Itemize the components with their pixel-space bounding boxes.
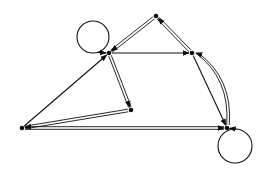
edge-A-to-D [109,55,131,107]
directed-graph-diagram [0,0,265,172]
edge-B-to-A [111,17,155,52]
self-loop-A [77,21,109,53]
edge-E-to-A [24,55,106,126]
node-F [225,126,230,131]
node-E [20,126,25,131]
node-D [129,108,134,113]
node-A [107,51,112,56]
edge-F-to-C [196,53,230,125]
self-loops [77,21,252,163]
self-loop-F [218,129,252,163]
node-B [154,14,159,19]
edges [24,17,229,129]
edge-E-to-F [25,127,224,130]
edge-C-to-B [157,17,191,52]
self-loop-arrow-F [229,128,236,129]
node-C [190,51,195,56]
